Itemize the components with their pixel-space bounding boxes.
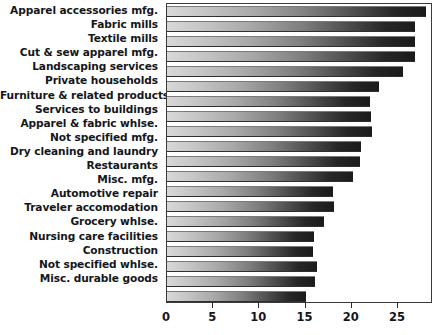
bar [167,21,415,32]
x-tick-label: 15 [297,310,313,324]
bar-row [167,6,426,17]
bar [167,81,379,92]
bar-row [167,246,313,257]
x-tick-label: 20 [343,310,359,324]
bar-row [167,186,333,197]
bars-container [167,4,431,302]
bar [167,111,371,122]
category-label: Landscaping services [0,59,162,73]
category-label: Furniture & related products [0,88,162,102]
bar-chart: Apparel accessories mfg.Fabric millsText… [0,0,434,335]
bar [167,246,313,257]
category-label: Automotive repair [0,186,162,200]
bar-row [167,201,334,212]
category-label: Apparel accessories mfg. [0,3,162,17]
category-label: Construction [0,243,162,257]
bar-row [167,36,415,47]
category-label: Traveler accomodation [0,200,162,214]
bar-row [167,231,314,242]
bar-row [167,216,324,227]
bar [167,96,370,107]
category-label: Not specified mfg. [0,130,162,144]
bar [167,126,372,137]
plot-area [166,3,432,303]
bar [167,276,315,287]
bar-row [167,21,415,32]
bar-row [167,276,315,287]
bar-row [167,111,371,122]
x-tick-mark [305,302,306,308]
category-label: Misc. mfg. [0,172,162,186]
category-label: Grocery whlse. [0,214,162,228]
category-label: Misc. durable goods [0,271,162,285]
category-axis-labels: Apparel accessories mfg.Fabric millsText… [0,3,162,302]
bar [167,171,353,182]
bar-row [167,171,353,182]
category-label: Fabric mills [0,17,162,31]
bar [167,36,415,47]
bar-row [167,291,306,302]
category-label: Not specified whlse. [0,257,162,271]
category-label: Private households [0,73,162,87]
bar [167,6,426,17]
category-label: Nursing care facilities [0,229,162,243]
x-tick-label: 25 [389,310,405,324]
x-tick-mark [212,302,213,308]
bar [167,201,334,212]
bar [167,291,306,302]
x-tick-mark [258,302,259,308]
x-tick-label: 5 [208,310,216,324]
category-label: Dry cleaning and laundry [0,144,162,158]
bar [167,231,314,242]
bar-row [167,126,372,137]
bar [167,66,403,77]
bar [167,261,317,272]
bar [167,156,360,167]
category-label: Restaurants [0,158,162,172]
x-tick-label: 10 [250,310,266,324]
bar [167,186,333,197]
bar-row [167,96,370,107]
bar [167,216,324,227]
bar-row [167,66,403,77]
x-tick-label: 0 [162,310,170,324]
bar-row [167,261,317,272]
bar [167,141,361,152]
bar-row [167,156,360,167]
x-tick-mark [351,302,352,308]
category-label: Apparel & fabric whlse. [0,116,162,130]
category-label: Textile mills [0,31,162,45]
x-tick-mark [397,302,398,308]
bar-row [167,141,361,152]
category-label: Cut & sew apparel mfg. [0,45,162,59]
bar-row [167,81,379,92]
bar-row [167,51,415,62]
bar [167,51,415,62]
category-label: Services to buildings [0,102,162,116]
x-axis: 0510152025 [166,302,432,335]
